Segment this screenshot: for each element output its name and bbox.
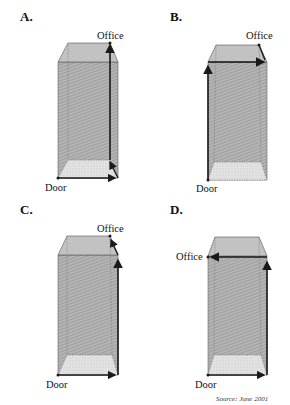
panel-label-c: C.: [20, 202, 33, 217]
panel-a: A. Office Door: [20, 9, 124, 193]
panel-label-b: B.: [170, 9, 182, 24]
door-label-d: Door: [195, 379, 217, 390]
office-label-b: Office: [246, 30, 273, 41]
office-label-a: Office: [97, 30, 124, 41]
panel-label-d: D.: [170, 202, 183, 217]
door-label-c: Door: [46, 379, 68, 390]
box-b: [208, 45, 267, 180]
box-a: [58, 43, 118, 178]
panel-label-a: A.: [20, 9, 33, 24]
door-label-b: Door: [196, 183, 218, 194]
door-label-a: Door: [45, 182, 67, 193]
source-note: Source: June 2001: [216, 395, 268, 403]
panel-b: B. Office Door: [170, 9, 273, 194]
office-label-c: Office: [97, 223, 124, 234]
office-label-d: Office: [176, 251, 203, 262]
box-c: [58, 236, 118, 375]
panel-c: C. Office Door: [20, 202, 124, 390]
panel-d: D. Office Door: [170, 202, 267, 390]
route-diagram: A. Office Door B.: [0, 0, 290, 405]
